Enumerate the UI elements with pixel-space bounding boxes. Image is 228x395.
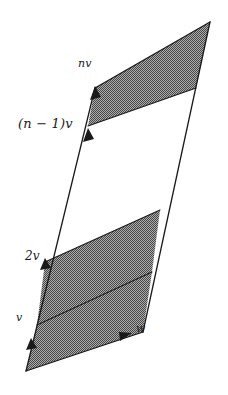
label-2v: 2v [25, 250, 40, 262]
upper-shaded-band [88, 22, 210, 126]
label-n-minus-1-v: (n − 1)v [18, 117, 73, 130]
label-w: w [136, 323, 146, 334]
figure-container: nv (n − 1)v 2v v w [0, 0, 228, 395]
geometry-figure [0, 0, 228, 395]
label-nv: nv [78, 58, 92, 69]
label-v: v [16, 312, 22, 323]
